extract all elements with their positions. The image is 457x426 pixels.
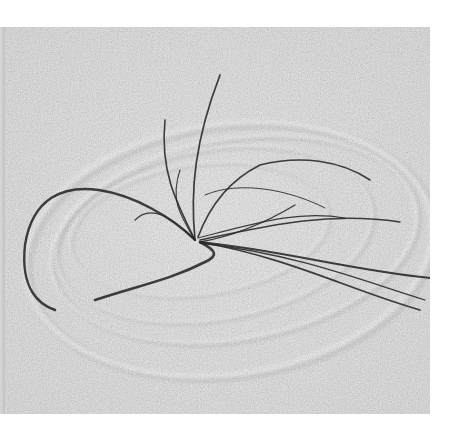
photo-scene [5,27,430,414]
sand-grass-photograph [5,27,430,414]
sand-grain-texture [5,27,430,414]
